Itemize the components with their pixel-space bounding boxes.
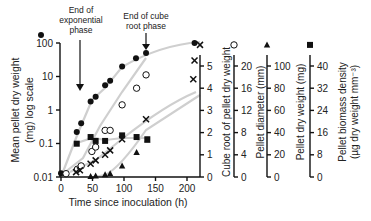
triangle-marker: [133, 149, 139, 155]
axis-tick-label: 16: [317, 127, 329, 138]
axis-dry_weight: [267, 55, 271, 177]
square-marker: [93, 138, 99, 144]
arrow-head: [142, 44, 150, 50]
y-tick-label: 1: [47, 105, 53, 116]
square-marker: [119, 132, 125, 138]
open-circle-marker: [133, 85, 139, 91]
axis-title-cube_root: Cube root of pellet dry weight: [221, 47, 232, 177]
filled-circle-marker: [133, 55, 139, 61]
annotation-exponential: exponential: [59, 15, 103, 25]
axis-tick-label: 12: [241, 105, 253, 116]
y-axis-log: [56, 43, 60, 177]
axis-tick-label: 8: [241, 127, 247, 138]
open-circle-marker: [92, 144, 98, 150]
fit-curves: [61, 42, 200, 178]
axis-tick-label: 1: [207, 149, 213, 160]
filled-circle-marker: [102, 82, 108, 88]
annotation-cube-root: End of cube: [123, 11, 169, 21]
x-tick-label: 150: [147, 183, 164, 194]
axis-tick-label: 60: [274, 105, 286, 116]
chart-svg: 0.010.1110100Mean pellet dry weight(mg) …: [0, 0, 371, 221]
y-tick-label: 0.01: [34, 172, 54, 183]
filled-circle-marker: [74, 129, 80, 135]
y-axis-subtitle: (mg) log scale: [23, 77, 35, 143]
axis-tick-label: 4: [241, 149, 247, 160]
triangle-marker: [264, 41, 270, 47]
axis-tick-label: 32: [317, 83, 329, 94]
square-marker: [102, 138, 108, 144]
axis-tick-label: 2: [207, 127, 213, 138]
annotation-exponential: phase: [69, 25, 92, 35]
axis-title-dry_weight: Pellet dry weight (mg): [295, 64, 306, 161]
axis-tick-label: 20: [241, 61, 253, 72]
axis-tick-label: 100: [274, 61, 291, 72]
y-axis-title: Mean pellet dry weight: [9, 57, 21, 162]
filled-circle-marker: [143, 50, 149, 56]
axis-title-density: (µg dry weight mm⁻³): [349, 65, 360, 159]
axis-tick-label: 24: [317, 105, 329, 116]
filled-circle-marker: [107, 78, 113, 84]
chart-figure: 0.010.1110100Mean pellet dry weight(mg) …: [0, 0, 371, 221]
arrow-head: [76, 84, 84, 91]
axis-title-diameter: Pellet diameter (mm): [255, 66, 266, 159]
square-marker: [134, 134, 140, 140]
open-circle-marker: [63, 170, 69, 176]
y-tick-label: 10: [42, 71, 54, 82]
filled-circle-marker: [78, 120, 84, 126]
axis-tick-label: 16: [241, 83, 253, 94]
x-axis: [60, 177, 200, 181]
axis-diameter: [234, 55, 238, 177]
fit-curve-dry-weight: [88, 95, 200, 178]
x-axis-title: Time since inoculation (h): [68, 196, 187, 208]
axis-cube_root: [200, 55, 204, 177]
cross-marker: [192, 57, 198, 63]
axis-tick-label: 20: [274, 149, 286, 160]
axis-tick-label: 0: [207, 172, 213, 183]
open-circle-marker: [107, 127, 113, 133]
x-tick-label: 200: [179, 183, 196, 194]
square-marker: [74, 141, 80, 147]
filled-circle-marker: [88, 98, 94, 104]
axis-density: [310, 55, 314, 177]
filled-circle-marker: [93, 94, 99, 100]
axis-tick-label: 3: [207, 105, 213, 116]
axis-tick-label: 40: [317, 61, 329, 72]
annotation-cube-root: root phase: [126, 21, 166, 31]
axis-tick-label: 8: [317, 149, 323, 160]
filled-circle-marker: [119, 63, 125, 69]
cross-marker: [190, 76, 196, 82]
filled-circle-marker: [192, 40, 198, 46]
axis-tick-label: 0: [241, 172, 247, 183]
axis-tick-label: 0: [317, 172, 323, 183]
filled-circle-marker: [38, 32, 44, 38]
annotation-exponential: End of: [69, 5, 94, 15]
axis-tick-label: 0: [274, 172, 280, 183]
annotation-arrow-exponential: [76, 40, 84, 91]
axis-tick-label: 4: [207, 83, 213, 94]
axis-tick-label: 5: [207, 61, 213, 72]
square-marker: [307, 42, 313, 48]
x-tick-label: 50: [87, 183, 99, 194]
axis-title-density: Pellet biomass density: [337, 62, 348, 162]
x-tick-label: 100: [116, 183, 133, 194]
axis-tick-label: 80: [274, 83, 286, 94]
y-tick-label: 100: [36, 38, 53, 49]
fit-curve-cube-root: [70, 92, 196, 172]
open-circle-marker: [231, 42, 237, 48]
open-circle-marker: [143, 72, 149, 78]
annotation-arrow-cube-root: [142, 33, 150, 50]
series-cube_root: [73, 57, 197, 175]
open-circle-marker: [119, 102, 125, 108]
axis-tick-label: 40: [274, 127, 286, 138]
y-tick-label: 0.1: [39, 138, 53, 149]
square-marker: [144, 136, 150, 142]
x-tick-label: 0: [58, 183, 64, 194]
